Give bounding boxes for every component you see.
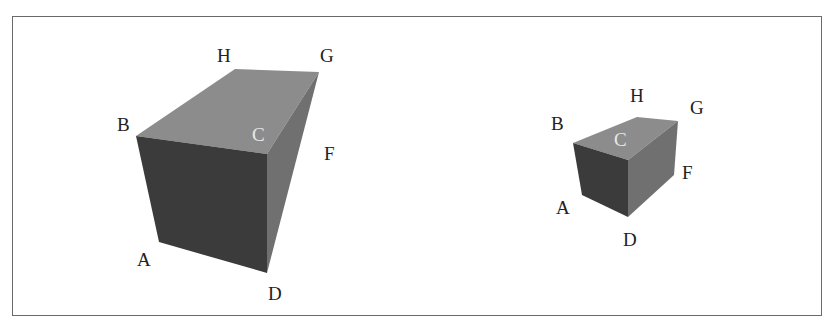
small-label-g: G: [690, 97, 704, 118]
small-label-d: D: [623, 229, 637, 250]
small-label-c: C: [614, 129, 627, 150]
large-label-h: H: [217, 45, 231, 66]
small-label-a: A: [556, 197, 570, 218]
small-label-b: B: [551, 113, 564, 134]
large-label-g: G: [320, 45, 334, 66]
large-box-front-face: [136, 136, 267, 273]
large-label-c: C: [252, 124, 265, 145]
small-label-f: F: [682, 162, 693, 183]
large-label-d: D: [268, 283, 282, 304]
large-label-f: F: [324, 143, 335, 164]
small-box: H G B C F A D: [551, 85, 704, 250]
large-box: H G B C F A D: [117, 45, 335, 304]
small-label-h: H: [630, 85, 644, 106]
large-label-b: B: [117, 114, 130, 135]
large-label-a: A: [137, 249, 151, 270]
diagram-canvas: H G B C F A D H G B C F A D: [0, 0, 838, 332]
